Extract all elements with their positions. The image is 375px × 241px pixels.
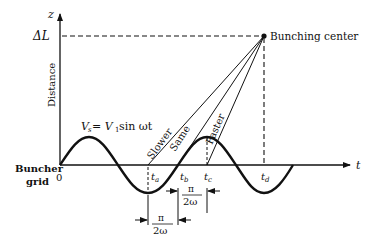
- svg-text:c: c: [208, 176, 212, 184]
- trajectory-faster: [207, 36, 264, 165]
- grid-label: grid: [26, 176, 49, 187]
- time-mark-td: td: [261, 171, 270, 184]
- time-mark-tc: tc: [204, 171, 212, 184]
- svg-text:2ω: 2ω: [183, 196, 198, 207]
- t-axis-label: t: [356, 159, 361, 172]
- svg-text:= V: = V: [92, 120, 114, 133]
- delta-l-label: ΔL: [32, 29, 50, 43]
- svg-text:2ω: 2ω: [153, 225, 168, 236]
- distance-label: Distance: [46, 63, 57, 107]
- velocity-modulation-diagram: z ΔL Distance t 0 Buncher grid Bunching …: [0, 0, 375, 241]
- trajectory-slower: [148, 36, 264, 165]
- svg-text:b: b: [184, 176, 189, 184]
- time-mark-tb: tb: [180, 171, 189, 184]
- interval-ab-fraction: π 2ω: [153, 213, 168, 236]
- buncher-label: Buncher: [15, 163, 64, 174]
- bunching-center-label: Bunching center: [270, 30, 359, 42]
- svg-text:sin ωt: sin ωt: [119, 120, 153, 133]
- equation: V s = V 1 sin ωt: [81, 120, 153, 134]
- svg-text:d: d: [265, 176, 270, 184]
- time-mark-ta: ta: [151, 171, 159, 184]
- interval-bc-fraction: π 2ω: [183, 184, 198, 207]
- svg-text:a: a: [155, 176, 159, 184]
- svg-text:π: π: [188, 184, 194, 194]
- z-axis-label: z: [47, 8, 54, 21]
- svg-text:π: π: [158, 213, 164, 223]
